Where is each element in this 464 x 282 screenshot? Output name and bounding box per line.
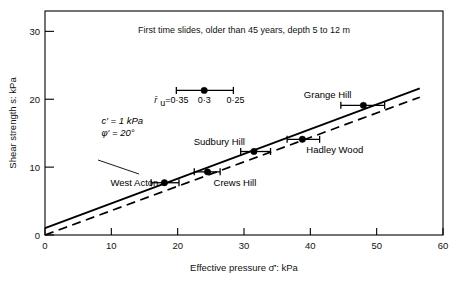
chart-canvas: 0102030405060 0102030 West ActonCrews Hi…: [0, 0, 464, 282]
data-point-marker: [161, 180, 167, 186]
data-point-group: Crews Hill: [194, 168, 256, 188]
x-tick-label: 30: [239, 240, 250, 251]
legend-value-high: 0·25: [226, 95, 244, 105]
annotation-friction-angle: φ′ = 20°: [101, 127, 134, 138]
data-point-group: Hadley Wood: [287, 136, 363, 156]
x-tick-label: 0: [42, 240, 47, 251]
y-tick-label: 0: [35, 230, 40, 241]
data-point-label: Sudbury Hill: [194, 136, 245, 147]
annotation-leader-line: [98, 160, 139, 174]
data-point-marker: [299, 136, 305, 142]
y-tick-label: 20: [29, 94, 40, 105]
y-tick-label: 30: [29, 26, 40, 37]
x-tick-label: 20: [172, 240, 183, 251]
legend-ru-symbol: r̄: [154, 95, 158, 105]
legend-error-bar: r̄u=0·350·30·25: [154, 87, 244, 108]
x-axis-ticks: 0102030405060: [42, 228, 448, 251]
chart-title: First time slides, older than 45 years, …: [138, 25, 350, 35]
legend-marker-dot: [201, 87, 207, 93]
x-tick-label: 40: [305, 240, 316, 251]
y-axis-ticks: 0102030: [29, 26, 54, 241]
data-point-group: Grange Hill: [304, 89, 385, 109]
data-point-marker: [360, 102, 366, 108]
data-point-marker: [251, 148, 257, 154]
x-axis-title: Effective pressure σ̄′: kPa: [190, 262, 299, 273]
data-point-label: Hadley Wood: [306, 144, 363, 155]
data-points: West ActonCrews HillSudbury HillHadley W…: [111, 89, 385, 188]
data-point-label: West Acton: [111, 177, 159, 188]
y-tick-label: 10: [29, 162, 40, 173]
x-tick-label: 50: [371, 240, 382, 251]
x-tick-label: 60: [438, 240, 449, 251]
fit-parameter-annotations: c′ = 1 kPaφ′ = 20°: [101, 115, 143, 138]
y-axis-title: Shear strength s: kPa: [7, 77, 18, 169]
data-point-marker: [204, 169, 210, 175]
fit-line-solid: [45, 88, 420, 228]
chart-figure: 0102030405060 0102030 West ActonCrews Hi…: [0, 0, 464, 282]
legend-value-low: =0·35: [165, 95, 188, 105]
data-point-label: Crews Hill: [214, 177, 257, 188]
annotation-cohesion: c′ = 1 kPa: [101, 115, 143, 126]
x-tick-label: 10: [106, 240, 117, 251]
data-point-group: Sudbury Hill: [194, 136, 271, 156]
data-point-label: Grange Hill: [304, 89, 352, 100]
data-point-group: West Acton: [111, 177, 179, 188]
legend-value-mid: 0·3: [198, 95, 211, 105]
fit-lines: [45, 88, 420, 235]
